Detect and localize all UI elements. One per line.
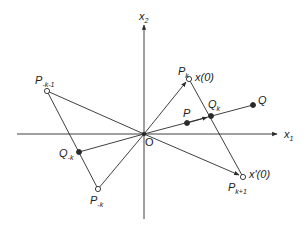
- label-x2: x2: [138, 10, 149, 24]
- label-origin: O: [145, 136, 154, 148]
- label-p: P: [183, 107, 191, 119]
- phase-plane-diagram: x2 x1 O Pk x(0) Pk+1 x'(0) P-k-1 P-k Qk …: [0, 0, 307, 229]
- point-pmk: [95, 186, 100, 191]
- segment-o-pmk: [98, 134, 144, 189]
- point-p: [185, 121, 190, 126]
- point-pmk1: [44, 88, 49, 93]
- point-q: [251, 103, 256, 108]
- label-x0: x(0): [194, 71, 214, 83]
- vector-xprime0: [144, 134, 239, 175]
- label-pmk1: P-k-1: [35, 74, 55, 88]
- segment-pmk1-pmk: [47, 91, 98, 189]
- vector-x0: [144, 82, 186, 134]
- label-qmk: Q-k: [59, 147, 74, 161]
- point-qk: [209, 114, 214, 119]
- label-x1: x1: [283, 128, 294, 142]
- label-q: Q: [258, 94, 267, 106]
- segment-o-pmk1: [47, 91, 144, 134]
- label-qk: Qk: [208, 98, 221, 112]
- label-pk: Pk: [178, 65, 189, 79]
- segment-pk-pk1: [189, 79, 243, 177]
- label-pk1: Pk+1: [228, 181, 247, 195]
- label-pmk: P-k: [90, 194, 104, 208]
- label-xprime0: x'(0): [248, 168, 270, 180]
- point-pk1: [240, 174, 245, 179]
- segment-o-qmk: [79, 134, 144, 152]
- point-qmk: [77, 150, 82, 155]
